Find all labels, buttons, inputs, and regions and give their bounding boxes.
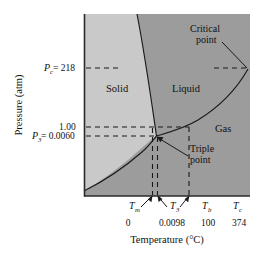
x-tick-symbol-tb: T b xyxy=(202,200,212,213)
x-tick-value-tb: 100 xyxy=(201,218,216,228)
y-tick-label-p3: P 3 = 0.0060 xyxy=(31,130,75,143)
critical-point-label-line1: Critical xyxy=(190,23,220,34)
x-tick-t3-subscript: 3 xyxy=(175,206,180,213)
x-tick-value-tm: 0 xyxy=(126,218,131,228)
y-tick-p3-value: = 0.0060 xyxy=(41,131,75,141)
x-tick-tc-subscript: c xyxy=(239,206,242,213)
x-tick-symbol-t3: T 3 xyxy=(170,200,180,213)
critical-point-label-line2: point xyxy=(196,34,217,45)
x-tick-symbol-tc: T c xyxy=(233,200,242,213)
x-tick-value-t3: 0.0098 xyxy=(159,218,185,228)
y-axis-title: Pressure (atm) xyxy=(13,74,25,135)
region-label-solid: Solid xyxy=(106,83,129,94)
triple-point-label-line2: point xyxy=(190,154,211,165)
x-tick-tb-subscript: b xyxy=(208,206,212,213)
region-label-liquid: Liquid xyxy=(172,83,201,94)
x-tick-value-tc: 374 xyxy=(232,218,247,228)
x-tick-symbol-tm: T m xyxy=(129,200,140,213)
x-tick-tm-subscript: m xyxy=(135,206,140,213)
phase-diagram-canvas: Solid Liquid Gas Critical point Triple p… xyxy=(0,0,269,254)
y-tick-label-pc: P c = 218 xyxy=(43,62,75,75)
triple-point-label-line1: Triple xyxy=(190,143,215,154)
y-tick-pc-value: = 218 xyxy=(53,63,75,73)
x-axis-title: Temperature (°C) xyxy=(130,234,204,246)
phase-diagram-figure: Solid Liquid Gas Critical point Triple p… xyxy=(0,0,269,254)
region-label-gas: Gas xyxy=(215,123,231,134)
